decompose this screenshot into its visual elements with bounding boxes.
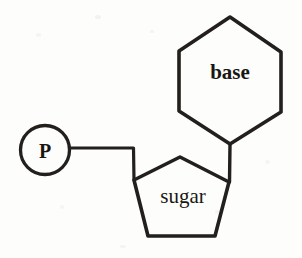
sugar-label: sugar	[160, 184, 206, 208]
bond-phosphate-to-sugar	[70, 148, 134, 180]
base-label: base	[210, 60, 250, 84]
phosphate-label: P	[39, 140, 51, 162]
diagram-canvas: base sugar P	[0, 0, 302, 258]
bond-base-to-sugar	[230, 144, 231, 182]
nucleotide-diagram: base sugar P	[0, 0, 302, 258]
